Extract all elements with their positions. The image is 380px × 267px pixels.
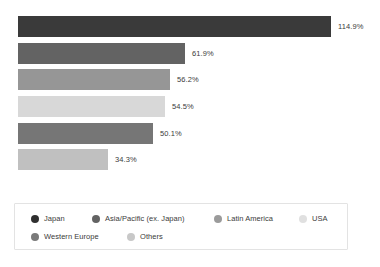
bar-row: 50.1%	[18, 123, 182, 144]
legend-swatch-icon	[31, 215, 39, 223]
chart-legend: JapanAsia/Pacific (ex. Japan)Latin Ameri…	[14, 203, 348, 250]
bar	[18, 96, 165, 117]
legend-item[interactable]: Western Europe	[31, 229, 99, 245]
chart-plot-area: 114.9%61.9%56.2%54.5%50.1%34.3%	[0, 0, 380, 190]
bar-row: 54.5%	[18, 96, 194, 117]
bar-chart: 114.9%61.9%56.2%54.5%50.1%34.3% JapanAsi…	[0, 0, 380, 267]
bar-value-label: 54.5%	[172, 103, 194, 111]
bar-row: 114.9%	[18, 16, 363, 37]
legend-item-label: Others	[140, 233, 163, 241]
legend-item[interactable]: USA	[299, 211, 328, 227]
bar-value-label: 50.1%	[160, 130, 182, 138]
bar-value-label: 61.9%	[192, 50, 214, 58]
bar-row: 34.3%	[18, 149, 137, 170]
legend-swatch-icon	[214, 215, 222, 223]
bar	[18, 16, 331, 37]
legend-row: JapanAsia/Pacific (ex. Japan)Latin Ameri…	[15, 211, 347, 227]
legend-row: Western EuropeOthers	[15, 229, 347, 245]
bar-value-label: 34.3%	[115, 156, 137, 164]
legend-item-label: Western Europe	[44, 233, 99, 241]
legend-item[interactable]: Latin America	[214, 211, 273, 227]
bar	[18, 149, 108, 170]
legend-item[interactable]: Japan	[31, 211, 65, 227]
bar-row: 56.2%	[18, 69, 199, 90]
bar	[18, 69, 170, 90]
legend-swatch-icon	[127, 233, 135, 241]
legend-item-label: USA	[312, 215, 328, 223]
legend-item-label: Asia/Pacific (ex. Japan)	[105, 215, 185, 223]
legend-swatch-icon	[299, 215, 307, 223]
legend-item[interactable]: Others	[127, 229, 163, 245]
legend-item-label: Latin America	[227, 215, 273, 223]
bar-row: 61.9%	[18, 43, 214, 64]
bar-value-label: 114.9%	[338, 23, 363, 31]
bar	[18, 123, 153, 144]
legend-item-label: Japan	[44, 215, 65, 223]
bar	[18, 43, 185, 64]
legend-swatch-icon	[31, 233, 39, 241]
legend-item[interactable]: Asia/Pacific (ex. Japan)	[92, 211, 185, 227]
legend-swatch-icon	[92, 215, 100, 223]
bar-value-label: 56.2%	[177, 76, 199, 84]
